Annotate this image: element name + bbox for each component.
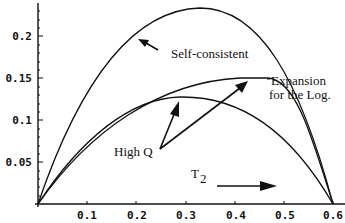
x-tick-label: 0.1 [77, 209, 97, 222]
high-q-label: High Q [114, 144, 153, 159]
y-tick-label: 0.05 [6, 156, 33, 169]
t2-subscript: 2 [200, 171, 207, 186]
t2-arrowhead [260, 181, 277, 191]
x-tick-label: 0.5 [275, 209, 295, 222]
self-consistent-label: Self-consistent [171, 46, 249, 61]
x-tick-label: 0.3 [176, 209, 196, 222]
chart: 0.05 0.1 0.15 0.2 0.1 0.2 0.3 0.4 0.5 0.… [0, 0, 345, 223]
y-tick-label: 0.1 [12, 114, 32, 127]
t2-label: T [191, 166, 199, 181]
x-tick-label: 0.4 [226, 209, 246, 222]
y-major-ticks [38, 36, 43, 162]
expansion-label-line1: Expansion [271, 73, 326, 88]
y-tick-label: 0.2 [12, 30, 32, 43]
self-consistent-arrow [146, 43, 158, 50]
y-tick-label: 0.15 [6, 72, 33, 85]
high-q-curve [38, 97, 333, 204]
self-consistent-curve [38, 8, 333, 204]
expansion-label-line2: for the Log. [269, 87, 331, 102]
x-tick-label: 0.2 [127, 209, 147, 222]
x-tick-label: 0.6 [323, 209, 343, 222]
high-q-arrowhead-lower [170, 101, 179, 117]
